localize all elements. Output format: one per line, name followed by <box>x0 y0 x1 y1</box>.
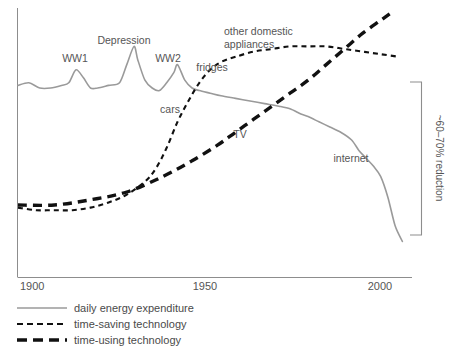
reduction-bracket <box>410 82 422 235</box>
chart-legend: daily energy expenditure time-saving tec… <box>17 302 194 346</box>
x-tick-label-1950: 1950 <box>193 280 217 292</box>
legend-label-daily-energy-expenditure: daily energy expenditure <box>74 302 194 314</box>
annotation-other-domestic-appliances-line2: appliances <box>224 38 274 50</box>
chart-figure: WW1 Depression WW2 fridges other domesti… <box>0 0 458 350</box>
annotation-ww1: WW1 <box>62 52 88 64</box>
legend-label-time-using-technology: time-using technology <box>74 334 182 346</box>
annotation-depression: Depression <box>97 34 150 46</box>
annotation-other-domestic-appliances-line1: other domestic <box>224 25 293 37</box>
annotation-internet: internet <box>333 152 368 164</box>
x-tick-label-2000: 2000 <box>368 280 392 292</box>
annotation-fridges: fridges <box>196 61 228 73</box>
annotation-cars: cars <box>160 103 180 115</box>
annotation-ww2: WW2 <box>155 52 181 64</box>
reduction-bracket-label: ~60–70% reduction <box>434 115 445 201</box>
series-time-using-technology <box>18 13 392 206</box>
legend-item-time-using-technology: time-using technology <box>17 334 182 346</box>
x-tick-label-1900: 1900 <box>20 280 44 292</box>
series-daily-energy-expenditure <box>18 46 402 241</box>
legend-item-daily-energy-expenditure: daily energy expenditure <box>17 302 194 314</box>
legend-item-time-saving-technology: time-saving technology <box>17 318 187 330</box>
annotation-tv: TV <box>233 128 246 140</box>
legend-label-time-saving-technology: time-saving technology <box>74 318 187 330</box>
